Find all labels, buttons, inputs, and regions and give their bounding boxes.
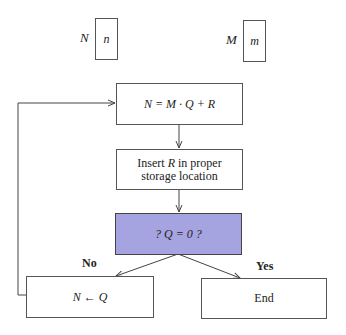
branch-yes-label: Yes (256, 259, 273, 274)
division-step-box: N = M · Q + R (116, 83, 243, 125)
end-box: End (201, 278, 327, 319)
store-text-var: R (168, 156, 175, 170)
decision-box: ? Q = 0 ? (115, 213, 242, 255)
variable-n-box: n (95, 18, 118, 60)
variable-m-value: m (250, 34, 259, 49)
variable-m-box: m (243, 20, 266, 62)
variable-m-label: M (226, 32, 237, 48)
assign-quotient-text: N ← Q (73, 291, 108, 304)
variable-n-value: n (104, 32, 110, 47)
decision-condition: ? Q = 0 ? (155, 228, 202, 241)
store-text-pre: Insert (137, 156, 167, 170)
assign-quotient-box: N ← Q (26, 276, 154, 318)
end-text: End (254, 292, 273, 305)
variable-n-label: N (80, 30, 89, 46)
store-remainder-box: Insert R in proper storage location (116, 149, 243, 190)
store-remainder-text: Insert R in proper storage location (131, 157, 228, 183)
branch-no-label: No (82, 256, 97, 271)
division-formula: N = M · Q + R (144, 98, 215, 111)
